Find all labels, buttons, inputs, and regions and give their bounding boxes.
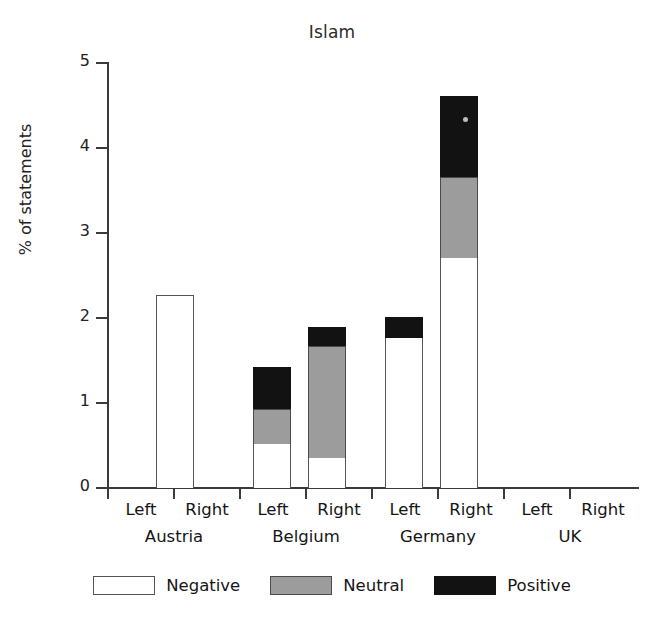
- y-tick-label-3: 3: [62, 223, 90, 239]
- y-axis-line: [107, 62, 109, 489]
- x-tick-3: [305, 489, 307, 499]
- bar-austria-right[interactable]: [156, 295, 194, 488]
- white-square-icon: [93, 576, 155, 595]
- chart-container: Islam % of statements 5 4 3 2 1 0: [0, 0, 664, 627]
- x-tick-2: [239, 489, 241, 499]
- x-label-belgium-left: Left: [240, 500, 306, 519]
- chart-legend: Negative Neutral Positive: [0, 576, 664, 595]
- x-label-austria-right: Right: [174, 500, 240, 519]
- legend-item-negative[interactable]: Negative: [93, 576, 240, 595]
- x-label-germany-right: Right: [438, 500, 504, 519]
- bar-segment-neutral: [440, 177, 478, 258]
- x-label-uk-left: Left: [504, 500, 570, 519]
- y-tick-label-0: 0: [62, 478, 90, 494]
- legend-item-neutral[interactable]: Neutral: [270, 576, 404, 595]
- y-tick-1: [96, 402, 108, 404]
- y-axis-title: % of statements: [16, 90, 35, 290]
- bar-segment-negative: [308, 458, 346, 488]
- chart-title: Islam: [0, 22, 664, 42]
- print-speck-artifact: [463, 117, 468, 122]
- y-tick-label-5: 5: [62, 53, 90, 69]
- bar-segment-positive: [253, 367, 291, 409]
- x-tick-0: [107, 489, 109, 499]
- bar-segment-neutral: [253, 409, 291, 444]
- bar-germany-right[interactable]: [440, 96, 478, 488]
- x-tick-4: [371, 489, 373, 499]
- y-tick-label-2: 2: [62, 308, 90, 324]
- bar-germany-left[interactable]: [385, 317, 423, 488]
- x-group-label-belgium: Belgium: [240, 526, 372, 548]
- x-label-belgium-right: Right: [306, 500, 372, 519]
- gray-square-icon: [270, 576, 332, 595]
- y-tick-label-1: 1: [62, 393, 90, 409]
- x-tick-5: [437, 489, 439, 499]
- black-square-icon: [434, 576, 496, 595]
- x-label-austria-left: Left: [108, 500, 174, 519]
- x-tick-7: [569, 489, 571, 499]
- bar-segment-neutral: [308, 346, 346, 458]
- x-tick-1: [173, 489, 175, 499]
- bar-segment-positive: [308, 327, 346, 346]
- legend-label-negative: Negative: [166, 576, 240, 595]
- bar-segment-positive: [440, 96, 478, 177]
- x-group-label-germany: Germany: [372, 526, 504, 548]
- y-tick-5: [96, 62, 108, 64]
- y-tick-3: [96, 232, 108, 234]
- y-tick-2: [96, 317, 108, 319]
- x-group-label-uk: UK: [504, 526, 636, 548]
- x-tick-6: [503, 489, 505, 499]
- legend-item-positive[interactable]: Positive: [434, 576, 571, 595]
- bar-segment-negative: [440, 258, 478, 488]
- bar-segment-negative: [385, 338, 423, 488]
- x-label-germany-left: Left: [372, 500, 438, 519]
- legend-label-neutral: Neutral: [343, 576, 404, 595]
- bar-belgium-left[interactable]: [253, 367, 291, 488]
- y-tick-label-4: 4: [62, 138, 90, 154]
- bar-segment-negative: [156, 295, 194, 488]
- bar-segment-negative: [253, 444, 291, 488]
- bar-segment-positive: [385, 317, 423, 338]
- x-group-label-austria: Austria: [108, 526, 240, 548]
- y-tick-4: [96, 147, 108, 149]
- bar-belgium-right[interactable]: [308, 327, 346, 488]
- x-label-uk-right: Right: [570, 500, 636, 519]
- legend-label-positive: Positive: [507, 576, 571, 595]
